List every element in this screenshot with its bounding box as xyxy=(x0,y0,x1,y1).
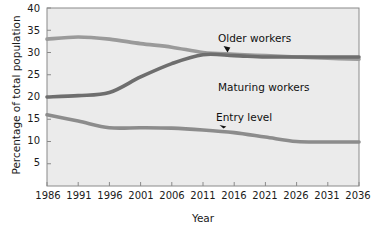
annotation-entry-level: Entry level xyxy=(216,111,272,123)
annotation-older-workers: Older workers xyxy=(218,32,291,44)
chart-figure: Percentage of total population 40 35 30 … xyxy=(0,0,381,236)
plot-area xyxy=(0,0,381,236)
annotation-maturing-workers: Maturing workers xyxy=(218,81,309,93)
plot-background xyxy=(47,8,359,186)
